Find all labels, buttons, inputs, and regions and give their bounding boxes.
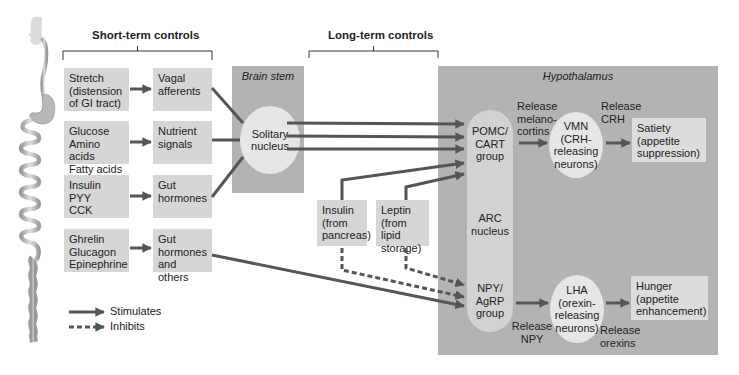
legend-stimulates: Stimulates (110, 305, 161, 318)
arrow-insulin-to-pomc (342, 163, 464, 200)
arrow-leptin-inhibits-npy (406, 248, 464, 285)
arrow-solitary-to-pomc-1 (287, 123, 464, 124)
legend-inhibits: Inhibits (110, 320, 145, 333)
arrow-solitary-to-pomc-2 (287, 136, 464, 137)
arrows-layer (0, 0, 739, 375)
arrow-leptin-to-pomc (406, 174, 464, 200)
line-gut-to-solitary (212, 157, 243, 197)
line-vagal-to-solitary (212, 88, 243, 123)
arrow-ghrelin-to-npy (212, 255, 464, 306)
arrow-insulin-inhibits-npy (342, 248, 464, 297)
